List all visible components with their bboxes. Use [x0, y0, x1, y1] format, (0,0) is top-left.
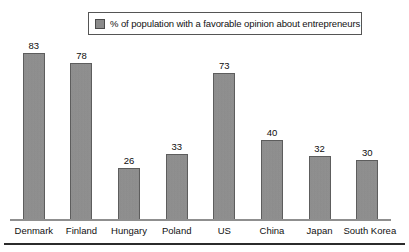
bar-value-label: 26: [105, 155, 153, 166]
plot-area: 8378263373403230: [10, 38, 391, 220]
bar-column: 32: [296, 38, 344, 220]
bar-value-label: 78: [58, 50, 106, 61]
bar-column: 33: [153, 38, 201, 220]
bar-value-label: 33: [153, 141, 201, 152]
bar-column: 30: [343, 38, 391, 220]
x-axis-label: South Korea: [343, 224, 391, 238]
bar-chart: % of population with a favorable opinion…: [0, 0, 409, 252]
x-axis-category-labels: DenmarkFinlandHungaryPolandUSChinaJapanS…: [10, 224, 391, 240]
x-axis-label: Japan: [296, 224, 344, 238]
bar-value-label: 73: [201, 60, 249, 71]
bar: [213, 73, 235, 220]
x-axis-label: Denmark: [10, 224, 58, 238]
bar: [23, 53, 45, 220]
legend-swatch-icon: [95, 19, 105, 29]
x-axis-label: Hungary: [105, 224, 153, 238]
x-axis-label: US: [201, 224, 249, 238]
bar-value-label: 83: [10, 40, 58, 51]
bar-column: 73: [201, 38, 249, 220]
bar: [118, 168, 140, 220]
bar: [70, 63, 92, 220]
bar-column: 40: [248, 38, 296, 220]
bar: [309, 156, 331, 220]
bar: [166, 154, 188, 220]
bar-column: 26: [105, 38, 153, 220]
bar-column: 78: [58, 38, 106, 220]
bar-value-label: 32: [296, 143, 344, 154]
bottom-divider: [4, 243, 405, 245]
x-axis-line: [10, 219, 391, 221]
bar-column: 83: [10, 38, 58, 220]
x-axis-label: China: [248, 224, 296, 238]
chart-legend: % of population with a favorable opinion…: [88, 12, 362, 35]
legend-label: % of population with a favorable opinion…: [110, 18, 360, 29]
x-axis-label: Finland: [58, 224, 106, 238]
bar-value-label: 40: [248, 127, 296, 138]
bar: [261, 140, 283, 220]
x-axis-label: Poland: [153, 224, 201, 238]
bar-value-label: 30: [343, 147, 391, 158]
bar: [356, 160, 378, 220]
